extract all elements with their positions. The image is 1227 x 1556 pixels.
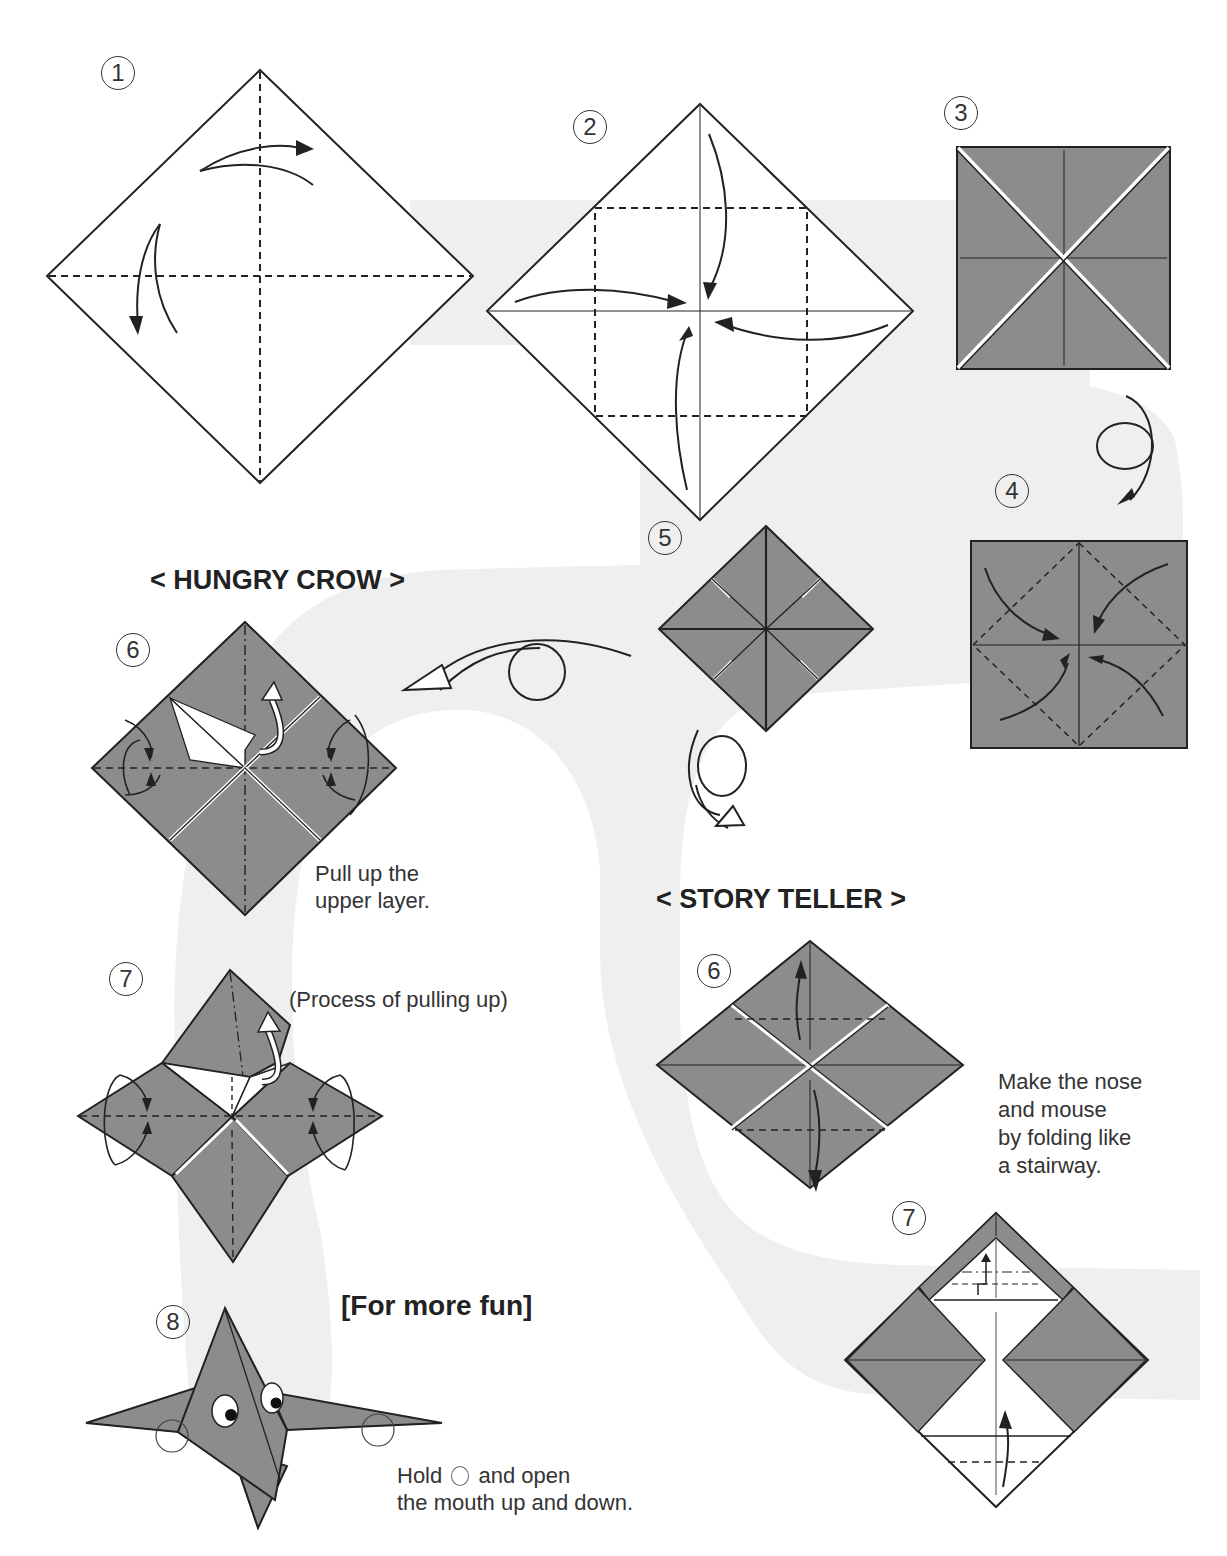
step-number-2: 2 [573, 110, 607, 144]
step-number-1: 1 [101, 56, 135, 90]
crow-step-8-note: Hold and open the mouth up and down. [397, 1462, 633, 1516]
crow-step-6-note: Pull up the upper layer. [315, 860, 430, 914]
crow-step-number-8: 8 [156, 1305, 190, 1339]
crow-step-number-7: 7 [109, 962, 143, 996]
step-number-4: 4 [995, 474, 1029, 508]
story-teller-heading: < STORY TELLER > [656, 884, 906, 915]
for-more-fun-heading: [For more fun] [341, 1290, 532, 1322]
step-number-5: 5 [648, 521, 682, 555]
hungry-crow-heading: < HUNGRY CROW > [150, 565, 405, 596]
teller-step-number-6: 6 [697, 954, 731, 988]
teller-step-6-note: Make the nose and mouse by folding like … [998, 1068, 1142, 1180]
hold-point-circle-icon [451, 1466, 469, 1486]
teller-step-number-7: 7 [892, 1201, 926, 1235]
crow-step-number-6: 6 [116, 633, 150, 667]
crow-step-7-note: (Process of pulling up) [289, 986, 508, 1013]
step-number-3: 3 [944, 96, 978, 130]
